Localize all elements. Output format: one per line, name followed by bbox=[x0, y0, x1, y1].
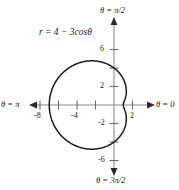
axis-label-bottom: θ = 3π/2 bbox=[96, 176, 125, 185]
equation-annotation: r = 4 − 3cosθ bbox=[39, 28, 92, 38]
x-tick-label-minus4: -4 bbox=[71, 112, 78, 120]
y-tick-label-minus6: -6 bbox=[98, 156, 105, 164]
y-tick-label-2: 2 bbox=[100, 82, 104, 90]
x-tick-label-2: 2 bbox=[130, 112, 134, 120]
y-tick-label-minus2: -2 bbox=[98, 119, 105, 127]
y-tick-label-6: 6 bbox=[100, 45, 104, 53]
axis-label-left: θ = π bbox=[1, 100, 19, 109]
y-axis bbox=[111, 17, 118, 176]
polar-plot-figure: r = 4 − 3cosθ θ = π/2 θ = 0 θ = π θ = 3π… bbox=[0, 0, 179, 190]
x-axis bbox=[29, 102, 155, 109]
axis-label-right: θ = 0 bbox=[156, 100, 174, 109]
x-axis-left-arrow bbox=[29, 102, 37, 109]
axis-label-top: θ = π/2 bbox=[100, 6, 125, 15]
y-axis-up-arrow bbox=[111, 17, 118, 25]
x-axis-right-arrow bbox=[147, 102, 155, 109]
x-tick-label-minus8: -8 bbox=[34, 112, 41, 120]
